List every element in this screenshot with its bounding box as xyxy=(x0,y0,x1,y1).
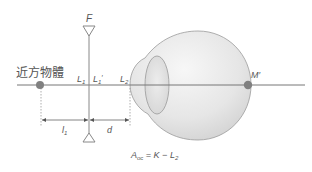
l1-label: L1 xyxy=(77,74,85,85)
far-point-m-dot xyxy=(244,81,252,89)
d-arrow-left-icon xyxy=(90,118,94,122)
lens-bottom-triangle-icon xyxy=(83,133,95,142)
l2-label: L2 xyxy=(120,74,129,85)
accommodation-diagram: 近方物體 F L1 L1′ L2 M′ l1 d Aoc = K − L2 xyxy=(0,0,312,172)
m-prime-label: M′ xyxy=(251,70,260,80)
l1-arrow-right-icon xyxy=(84,118,88,122)
l1-prime-label: L1′ xyxy=(93,74,103,85)
d-distance-label: d xyxy=(107,125,113,135)
lens-top-triangle-icon xyxy=(83,26,95,36)
near-object-dot xyxy=(36,81,44,89)
f-label: F xyxy=(86,13,93,24)
l1-distance-label: l1 xyxy=(62,125,67,136)
d-arrow-right-icon xyxy=(125,118,129,122)
near-object-label: 近方物體 xyxy=(16,65,64,80)
accommodation-formula: Aoc = K − L2 xyxy=(130,150,179,161)
l1-arrow-left-icon xyxy=(42,118,46,122)
